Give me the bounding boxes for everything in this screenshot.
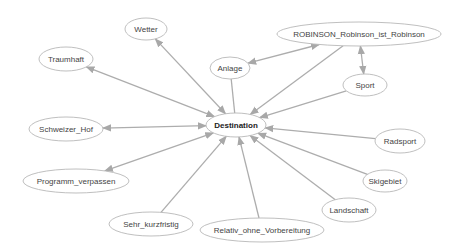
edge-traumhaft-destination: [86, 67, 214, 117]
edge-programm_verpassen-destination: [105, 133, 214, 171]
edge-schweizer_hof-destination: [103, 126, 206, 128]
node-label: Landschaft: [329, 206, 369, 215]
node-traumhaft[interactable]: Traumhaft: [39, 47, 93, 71]
node-schweizer_hof[interactable]: Schweizer_Hof: [29, 117, 103, 141]
node-label: Programm_verpassen: [37, 177, 116, 186]
node-relativ[interactable]: Relativ_ohne_Vorbereitung: [200, 218, 324, 242]
node-label: Destination: [214, 121, 258, 130]
nodes-layer: WetterTraumhaftAnlageROBINSON_Robinson_i…: [23, 18, 441, 242]
edge-landschaft-destination: [250, 136, 335, 200]
node-label: Schweizer_Hof: [39, 125, 94, 134]
network-diagram: WetterTraumhaftAnlageROBINSON_Robinson_i…: [0, 0, 461, 252]
node-destination[interactable]: Destination: [206, 113, 266, 137]
node-label: Traumhaft: [48, 55, 85, 64]
node-programm_verpassen[interactable]: Programm_verpassen: [23, 169, 129, 193]
edge-anlage-destination: [231, 79, 235, 113]
edge-sport-destination: [260, 91, 347, 118]
edge-robinson-sport: [360, 46, 363, 74]
node-radsport[interactable]: Radsport: [375, 129, 425, 153]
edge-wetter-destination: [155, 39, 225, 114]
edge-radsport-destination: [265, 128, 375, 139]
node-label: Anlage: [218, 64, 243, 73]
node-anlage[interactable]: Anlage: [210, 57, 250, 79]
node-robinson[interactable]: ROBINSON_Robinson_ist_Robinson: [277, 22, 441, 46]
node-label: Sehr_kurzfristig: [123, 220, 179, 229]
node-landschaft[interactable]: Landschaft: [322, 198, 376, 222]
node-label: Relativ_ohne_Vorbereitung: [214, 226, 311, 235]
node-label: ROBINSON_Robinson_ist_Robinson: [293, 30, 425, 39]
node-label: Skigebiet: [369, 177, 403, 186]
edge-anlage-robinson: [248, 45, 319, 64]
node-sehr_kurzfristig[interactable]: Sehr_kurzfristig: [109, 212, 193, 236]
node-sport[interactable]: Sport: [343, 74, 387, 96]
edge-relativ-destination: [239, 137, 259, 218]
node-wetter[interactable]: Wetter: [125, 18, 167, 40]
edge-robinson-destination: [250, 46, 343, 115]
node-label: Radsport: [384, 137, 417, 146]
node-skigebiet[interactable]: Skigebiet: [363, 170, 407, 192]
node-label: Sport: [355, 81, 375, 90]
node-label: Wetter: [134, 25, 158, 34]
